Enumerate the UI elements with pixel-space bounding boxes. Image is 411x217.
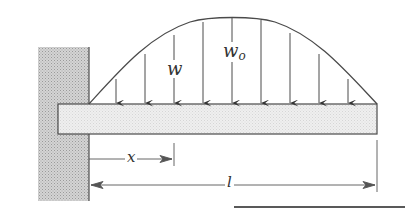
beam-diagram — [0, 0, 411, 217]
load-max-base: w — [223, 40, 238, 61]
load-label-w: w — [166, 60, 183, 78]
position-label-x: x — [125, 150, 137, 165]
length-label-l: l — [225, 175, 234, 190]
diagram-canvas: w wo x l — [0, 0, 411, 217]
load-max-subscript: o — [238, 49, 245, 63]
load-label-w-max: wo — [222, 42, 247, 62]
cantilever-beam — [58, 104, 377, 134]
